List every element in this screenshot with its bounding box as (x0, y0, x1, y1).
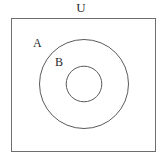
set-a-circle (40, 40, 129, 129)
set-b-label: B (55, 56, 63, 68)
set-b-circle (66, 66, 102, 102)
diagram-canvas (0, 0, 162, 158)
universal-set-label: U (0, 1, 162, 15)
set-a-label: A (33, 37, 42, 49)
venn-diagram-figure: ) U A B (0, 0, 162, 158)
